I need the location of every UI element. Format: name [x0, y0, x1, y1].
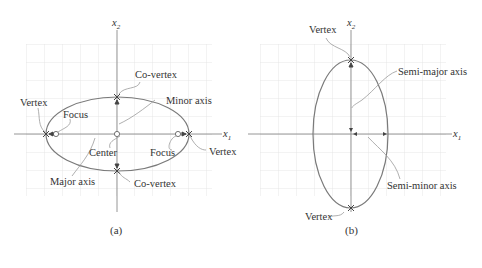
- co-vertex-top-label: Co-vertex: [135, 69, 178, 80]
- focus-right-label: Focus: [150, 147, 175, 158]
- minor-axis-label: Minor axis: [166, 95, 212, 106]
- x1-axis-label-a: x1: [222, 128, 231, 142]
- caption-b: (b): [345, 224, 358, 237]
- panel-a: x1 x2: [14, 17, 237, 237]
- x2-axis-label-b: x2: [346, 17, 356, 31]
- panel-b: x1 x2 Vertex Semi-major axis Semi-minor …: [248, 17, 467, 237]
- vertex-right-label: Vertex: [209, 146, 237, 157]
- semi-major-axis-label: Semi-major axis: [398, 66, 467, 77]
- caption-a: (a): [110, 224, 123, 237]
- semi-minor-axis-label: Semi-minor axis: [387, 180, 457, 191]
- vertex-top-label: Vertex: [309, 24, 337, 35]
- x2-axis-label-a: x2: [111, 17, 121, 31]
- x1-axis-label-b: x1: [452, 128, 461, 142]
- center-marker: [114, 131, 119, 136]
- center-label: Center: [89, 147, 117, 158]
- vertex-bottom-label: Vertex: [305, 211, 333, 222]
- vertex-left-label: Vertex: [20, 97, 48, 108]
- major-axis-label: Major axis: [50, 176, 95, 187]
- co-vertex-bottom-label: Co-vertex: [134, 178, 177, 189]
- focus-left-marker: [53, 131, 58, 136]
- focus-left-label: Focus: [63, 109, 88, 120]
- focus-right-marker: [175, 131, 180, 136]
- ellipse-diagram: x1 x2: [0, 0, 482, 268]
